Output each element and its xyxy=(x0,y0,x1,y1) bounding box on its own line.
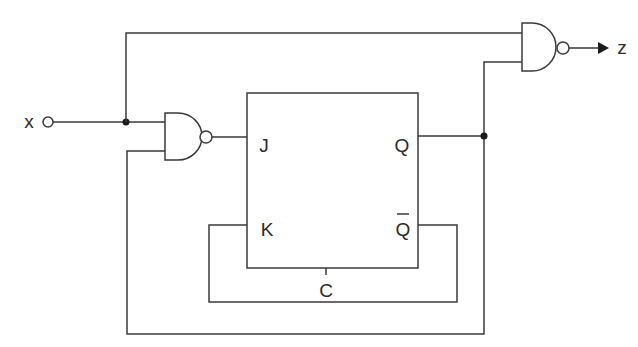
pin-q-bar-label: Q xyxy=(396,219,411,240)
nand-gate-1 xyxy=(165,113,212,160)
pin-k-label: K xyxy=(261,219,274,240)
pin-q-label: Q xyxy=(395,135,410,156)
arrow-head-icon xyxy=(598,42,609,54)
input-x-terminal xyxy=(43,117,53,127)
pin-j-label: J xyxy=(259,135,269,156)
jk-flip-flop xyxy=(247,93,418,268)
circuit-diagram: x J Q K Q C z xyxy=(0,0,638,347)
junction-q xyxy=(481,133,488,140)
nand-gate-2 xyxy=(522,23,569,71)
pin-c-label: C xyxy=(319,280,333,301)
input-x-label: x xyxy=(24,111,34,132)
output-z-label: z xyxy=(617,37,627,58)
